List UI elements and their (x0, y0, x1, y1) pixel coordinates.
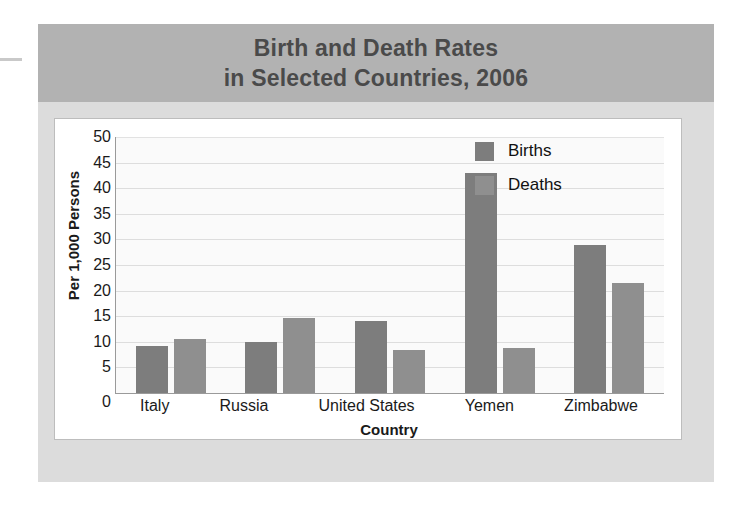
y-axis-tick-30: 30 (77, 231, 111, 247)
y-axis-tick-5: 5 (77, 359, 111, 375)
page-edge-mark (0, 58, 22, 61)
bar-births-yemen (465, 173, 497, 393)
x-axis-tick-label: Yemen (465, 397, 514, 415)
legend-label-deaths: Deaths (508, 175, 562, 195)
bar-group (574, 137, 644, 393)
bar-deaths-zimbabwe (612, 283, 644, 393)
bar-group (245, 137, 315, 393)
chart-panel: Per 1,000 Persons 5045403530252015105 0 … (38, 102, 714, 482)
y-axis-tick-15: 15 (77, 308, 111, 324)
plot-area (115, 137, 664, 394)
legend-label-births: Births (508, 141, 551, 161)
y-axis-tick-10: 10 (77, 334, 111, 350)
x-axis-tick-label: Russia (220, 397, 269, 415)
chart-title-line-1: Birth and Death Rates (224, 33, 529, 63)
legend-swatch-births (475, 142, 494, 161)
legend-item-births: Births (475, 141, 562, 161)
x-axis-tick-label: United States (319, 397, 415, 415)
y-axis-tick-40: 40 (77, 180, 111, 196)
y-axis-tick-35: 35 (77, 206, 111, 222)
y-axis-tick-50: 50 (77, 129, 111, 145)
chart-title-banner: Birth and Death Rates in Selected Countr… (38, 24, 714, 102)
y-axis-tick-25: 25 (77, 257, 111, 273)
y-axis-tick-20: 20 (77, 283, 111, 299)
bar-births-italy (136, 346, 168, 393)
bar-births-russia (245, 342, 277, 393)
x-axis-tick-label: Zimbabwe (564, 397, 638, 415)
x-axis-title: Country (115, 421, 663, 438)
bar-births-united-states (355, 321, 387, 393)
legend-swatch-deaths (475, 176, 494, 195)
bar-group (355, 137, 425, 393)
y-axis-tick-zero: 0 (77, 393, 111, 411)
chart-title-line-2: in Selected Countries, 2006 (224, 63, 529, 93)
y-axis-ticks: 5045403530252015105 (77, 137, 111, 393)
bar-group (136, 137, 206, 393)
bar-deaths-yemen (503, 348, 535, 393)
x-axis-tick-labels: ItalyRussiaUnited StatesYemenZimbabwe (115, 397, 663, 415)
chart-card: Per 1,000 Persons 5045403530252015105 0 … (54, 118, 682, 440)
x-axis-tick-label: Italy (140, 397, 169, 415)
y-axis-tick-45: 45 (77, 155, 111, 171)
chart-title: Birth and Death Rates in Selected Countr… (224, 33, 529, 93)
legend-item-deaths: Deaths (475, 175, 562, 195)
bar-deaths-russia (283, 318, 315, 393)
chart-figure: Birth and Death Rates in Selected Countr… (38, 24, 714, 482)
plot-wrapper: Per 1,000 Persons 5045403530252015105 0 … (55, 119, 681, 439)
bar-births-zimbabwe (574, 245, 606, 393)
bar-deaths-united-states (393, 350, 425, 393)
chart-legend: BirthsDeaths (475, 141, 562, 195)
bar-deaths-italy (174, 339, 206, 393)
bar-groups (116, 137, 664, 393)
